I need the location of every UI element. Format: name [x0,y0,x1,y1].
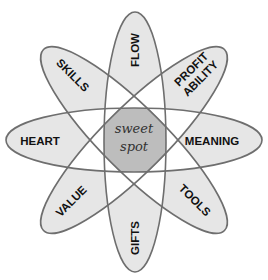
diagram-canvas: FLOW PROFIT ABILITY MEANING TOOLS GIFTS … [0,0,268,280]
petal-label-flow: FLOW [129,33,141,67]
petal-label-heart: HEART [20,135,60,147]
center-label-sweet: sweet [115,121,154,136]
center-label-spot: spot [120,139,149,154]
petal-label-meaning: MEANING [185,135,239,147]
petal-label-gifts: GIFTS [129,221,141,255]
sweet-spot-diagram: FLOW PROFIT ABILITY MEANING TOOLS GIFTS … [0,0,268,280]
